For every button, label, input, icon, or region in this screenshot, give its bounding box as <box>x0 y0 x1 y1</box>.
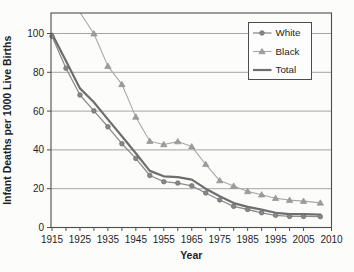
data-point-circle <box>273 213 278 218</box>
data-point-circle <box>203 191 208 196</box>
data-point-circle <box>78 93 83 98</box>
x-tick-label: 1945 <box>125 234 148 245</box>
legend-circle-marker <box>260 31 265 36</box>
legend-label: Black <box>276 46 300 57</box>
data-point-circle <box>64 66 69 71</box>
data-point-circle <box>245 207 250 212</box>
data-point-circle <box>162 179 167 184</box>
y-tick-label: 40 <box>33 144 45 155</box>
legend-label: Total <box>276 64 297 75</box>
x-tick-labels: 1915192519351945195519651975198519952005… <box>41 234 343 245</box>
x-tick-label: 1965 <box>181 234 204 245</box>
data-point-circle <box>120 141 125 146</box>
data-point-circle <box>50 34 55 39</box>
data-point-circle <box>175 181 180 186</box>
legend-label: White <box>276 27 302 38</box>
y-tick-label: 0 <box>38 222 44 233</box>
x-tick-label: 1975 <box>209 234 232 245</box>
infant-mortality-line-chart: 1915192519351945195519651975198519952005… <box>0 0 354 272</box>
x-tick-label: 1915 <box>41 234 64 245</box>
x-tick-label: 2010 <box>320 234 343 245</box>
y-tick-label: 100 <box>27 28 44 39</box>
data-point-circle <box>231 204 236 209</box>
data-point-circle <box>318 214 323 219</box>
data-point-circle <box>287 214 292 219</box>
data-point-circle <box>148 173 153 178</box>
y-tick-label: 80 <box>33 67 45 78</box>
data-point-circle <box>301 214 306 219</box>
y-tick-label: 20 <box>33 183 45 194</box>
legend: WhiteBlackTotal <box>249 23 312 80</box>
x-tick-label: 1985 <box>237 234 260 245</box>
data-point-circle <box>134 156 139 161</box>
x-tick-label: 1925 <box>69 234 92 245</box>
x-tick-label: 2005 <box>292 234 315 245</box>
x-tick-label: 1995 <box>264 234 287 245</box>
data-point-circle <box>106 125 111 130</box>
x-tick-label: 1955 <box>153 234 176 245</box>
data-point-circle <box>189 183 194 188</box>
data-point-circle <box>259 210 264 215</box>
figure-page: 1915192519351945195519651975198519952005… <box>0 0 354 272</box>
x-axis-title: Year <box>180 249 202 261</box>
data-point-circle <box>217 198 222 203</box>
x-tick-label: 1935 <box>97 234 120 245</box>
y-tick-label: 60 <box>33 106 45 117</box>
data-point-circle <box>92 109 97 114</box>
y-axis-title: Infant Deaths per 1000 Live Births <box>1 35 13 204</box>
